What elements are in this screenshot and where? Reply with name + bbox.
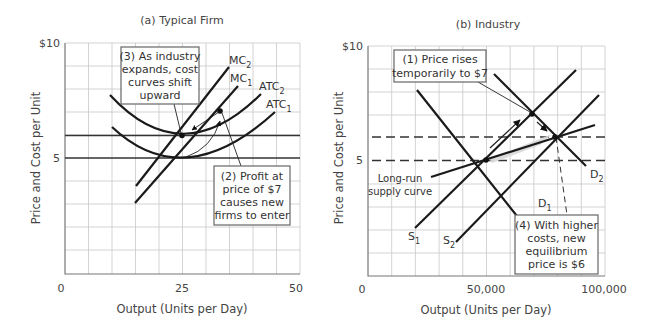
svg-text:causes new: causes new [220,196,284,209]
note-4-box: (4) With higher costs, new equilibrium p… [515,215,598,274]
panel-a-title: (a) Typical Firm [140,14,223,27]
mc1-label: MC1 [230,72,252,88]
note-1-box: (1) Price rises temporarily to $7 [392,50,488,82]
svg-text:curves shift: curves shift [128,76,192,89]
note1-pointer [478,82,530,112]
profit-point [217,108,223,114]
note3-pointer [174,104,181,133]
svg-text:(4) With higher: (4) With higher [515,219,598,232]
panel-b-title: (b) Industry [456,18,521,31]
svg-text:firms to enter: firms to enter [214,209,290,222]
note-2-box: (2) Profit at price of $7 causes new fir… [214,166,290,225]
panel-a-x-axis-label: Output (Units per Day) [116,302,247,316]
arrow-up-right-icon [490,120,520,148]
panel-b-ytick-10: $10 [342,40,363,53]
panel-a-xtick-50: 50 [289,282,303,295]
svg-text:expands, cost: expands, cost [122,63,199,76]
svg-text:(3) As industry: (3) As industry [120,50,201,63]
svg-text:(1) Price rises: (1) Price rises [402,53,477,66]
svg-text:(2) Profit at: (2) Profit at [221,170,284,183]
initial-equilibrium-point [483,157,489,163]
note-3-box: (3) As industry expands, cost curves shi… [120,47,201,104]
svg-text:costs, new: costs, new [527,232,585,245]
atc2-label: ATC2 [259,80,285,96]
panel-a-ytick-10: $10 [39,37,60,50]
s1-label: S1 [408,230,420,246]
panel-a-y-axis-label: Price and Cost per Unit [29,91,43,224]
lrs-label-line2: supply curve [368,186,432,197]
svg-text:equilibrium: equilibrium [525,245,587,258]
mc2-label: MC2 [229,54,251,70]
panel-b-xtick-50000: 50,000 [467,283,506,296]
svg-text:upward: upward [139,89,180,102]
panel-a-xtick-0: 0 [58,282,65,295]
panel-a-xtick-25: 25 [175,282,189,295]
panel-b-xtick-0: 0 [359,283,366,296]
svg-text:temporarily to $7: temporarily to $7 [392,67,488,80]
diagram-canvas: (a) Typical Firm [0,0,645,331]
svg-text:price of $7: price of $7 [223,183,282,196]
equilibrium-point [179,133,185,139]
new-equilibrium-point [552,134,558,140]
s2-label: S2 [443,234,455,250]
panel-b-xtick-100000: 100,000 [581,283,627,296]
panel-b-x-axis-label: Output (Units per Day) [420,303,551,317]
panel-b-ytick-5: 5 [356,154,363,167]
d2-label: D2 [590,168,604,184]
temporary-equilibrium-point [529,111,535,117]
panel-a-ytick-5: 5 [53,152,60,165]
d1-label: D1 [538,197,552,213]
panel-industry: (b) Industry [332,18,627,317]
panel-typical-firm: (a) Typical Firm [29,14,303,316]
lrs-label-line1: Long-run [378,173,423,184]
svg-text:price is $6: price is $6 [528,258,585,271]
panel-b-y-axis-label: Price and Cost per Unit [332,91,346,224]
